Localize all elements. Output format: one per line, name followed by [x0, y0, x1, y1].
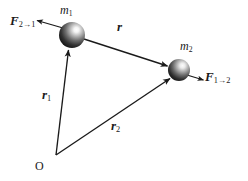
vector-r2-line: [56, 79, 170, 156]
vector-r-line: [84, 39, 168, 66]
vector-label-position-r1: r1: [42, 88, 51, 101]
vector-label-position-r2: r2: [111, 119, 120, 132]
gravitation-vector-diagram: F2→1 F1→2 r r1 r2 m1 m2 O: [0, 0, 248, 181]
mass-1-sphere: [59, 22, 85, 48]
vector-force-2-on-1-line: [37, 21, 63, 29]
vector-force-1-on-2-line: [187, 75, 204, 80]
mass-1-label: m1: [60, 4, 73, 16]
vector-label-force-2-on-1: F2→1: [10, 14, 35, 27]
diagram-canvas: [0, 0, 248, 181]
origin-label: O: [35, 160, 44, 172]
mass-2-sphere: [168, 59, 190, 81]
vector-r1-line: [56, 50, 69, 155]
vector-label-separation-r: r: [117, 20, 122, 33]
mass-2-label: m2: [180, 40, 193, 52]
vector-label-force-1-on-2: F1→2: [205, 70, 230, 83]
